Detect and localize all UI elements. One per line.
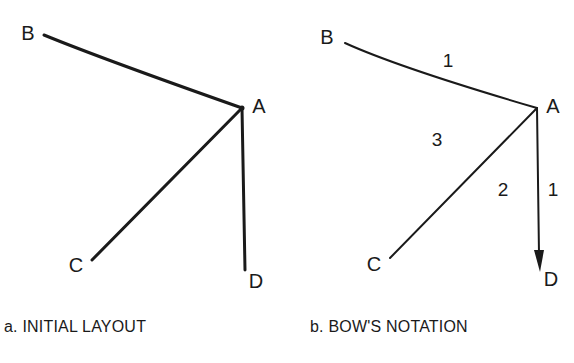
figure-a-edges xyxy=(44,35,245,270)
diagram-canvas xyxy=(0,0,574,363)
space-number: 2 xyxy=(498,180,509,199)
joint-a-node xyxy=(240,106,245,111)
edge-b-b xyxy=(345,43,537,108)
edge-b-c xyxy=(390,108,537,258)
node-label-b: B xyxy=(320,27,333,47)
edge-a-b xyxy=(44,35,242,108)
node-label-c: C xyxy=(367,254,381,274)
node-label-a: A xyxy=(252,96,265,116)
node-label-c: C xyxy=(69,255,83,275)
node-label-d: D xyxy=(249,271,263,291)
node-label-b: B xyxy=(21,23,34,43)
arrowhead-icon xyxy=(534,250,544,272)
caption-bows-notation: b. BOW'S NOTATION xyxy=(310,318,468,336)
space-number: 1 xyxy=(548,180,559,199)
space-number: 3 xyxy=(432,130,443,149)
edge-b-d xyxy=(537,108,539,254)
edge-a-c xyxy=(92,108,242,260)
edge-a-d xyxy=(242,108,245,270)
caption-initial-layout: a. INITIAL LAYOUT xyxy=(4,318,146,336)
space-number: 1 xyxy=(443,51,454,70)
figure-b-edges xyxy=(345,43,539,258)
node-label-a: A xyxy=(546,96,559,116)
node-label-d: D xyxy=(544,269,558,289)
